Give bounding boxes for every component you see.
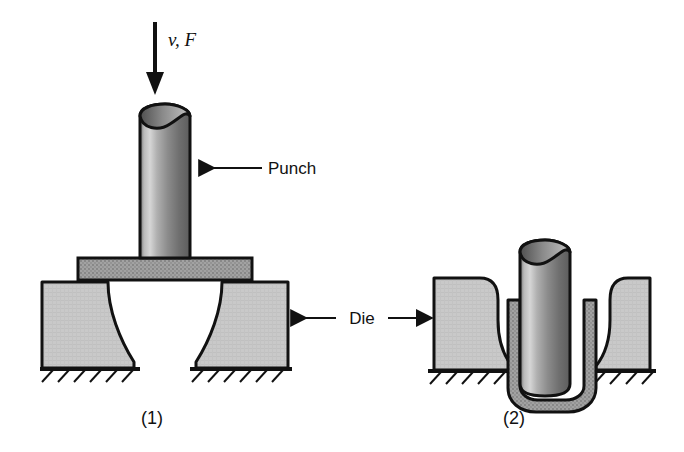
ground-left-stage2 bbox=[428, 371, 516, 384]
punch-label: Punch bbox=[268, 159, 316, 178]
deep-drawing-figure: v, F bbox=[0, 0, 684, 452]
die-left-stage2 bbox=[434, 278, 512, 370]
die-left-stage1 bbox=[42, 282, 134, 368]
die-right-stage2 bbox=[596, 278, 650, 370]
punch-callout: Punch bbox=[200, 159, 316, 178]
force-velocity-arrow bbox=[146, 22, 164, 95]
die-label: Die bbox=[349, 309, 375, 328]
die-right-stage1 bbox=[196, 282, 288, 368]
stage-1-group: v, F bbox=[40, 22, 316, 428]
force-velocity-label: v, F bbox=[168, 29, 197, 50]
sheet-metal-blank bbox=[78, 258, 252, 280]
ground-right-stage1 bbox=[190, 369, 292, 382]
caption-stage-1: (1) bbox=[141, 408, 163, 428]
die-callout: Die bbox=[292, 309, 432, 328]
ground-left-stage1 bbox=[40, 369, 140, 382]
figure-canvas: v, F bbox=[0, 0, 684, 452]
stage-2-group: (2) bbox=[428, 240, 656, 428]
caption-stage-2: (2) bbox=[503, 408, 525, 428]
ground-right-stage2 bbox=[592, 371, 656, 384]
